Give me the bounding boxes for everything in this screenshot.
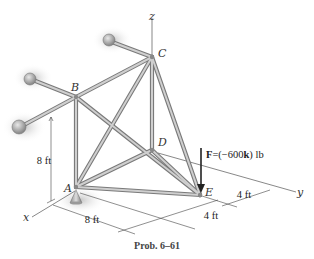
force-unit: ) lb [249,149,263,161]
joint-label-c: C [158,47,167,60]
joint-d [150,148,154,152]
y-axis-label: y [296,186,304,199]
joint-label-b: B [70,81,79,94]
joint-c [150,55,154,59]
joint-label-e: E [204,186,213,199]
ball-support-b [24,73,36,85]
ball-support-c [103,34,115,46]
x-axis-label: x [23,211,30,224]
dim-label-offset-1: 4 ft [237,189,251,200]
space-truss-diagram: z y x 8 ft 8 ft 4 ft 4 ft [0,0,314,259]
force-label: F=(−600k) lb [206,149,264,161]
truss-members [22,42,200,195]
dim-label-vertical: 8 ft [37,155,51,166]
dim-label-offset-2: 4 ft [204,210,218,221]
ball-support-lower [12,120,26,134]
figure-caption: Prob. 6–61 [134,240,180,251]
joint-label-a: A [63,182,72,195]
joint-label-d: D [157,136,167,149]
joint-e [198,193,202,197]
dim-label-horizontal: 8 ft [85,214,99,225]
joint-b [74,95,78,99]
force-value: =(−600 [212,149,243,161]
support-cone-base [70,201,82,204]
z-axis-label: z [148,10,155,23]
joint-a [74,185,78,189]
